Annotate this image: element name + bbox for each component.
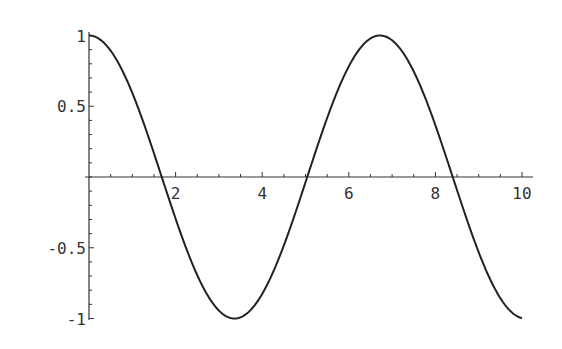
y-tick-labels: 10.5-0.5-1 (47, 27, 86, 329)
y-tick-label: 1 (76, 27, 86, 46)
x-tick-labels: 246810 (171, 184, 532, 203)
x-tick-label: 4 (257, 184, 267, 203)
y-tick-label: 0.5 (57, 97, 86, 116)
x-tick-label: 10 (512, 184, 531, 203)
x-tick-label: 8 (431, 184, 441, 203)
x-tick-label: 2 (171, 184, 181, 203)
y-tick-label: -0.5 (47, 239, 86, 258)
y-axis (89, 32, 94, 320)
x-tick-label: 6 (344, 184, 354, 203)
cosine-plot: 246810 10.5-0.5-1 (0, 0, 562, 349)
y-tick-label: -1 (67, 310, 86, 329)
